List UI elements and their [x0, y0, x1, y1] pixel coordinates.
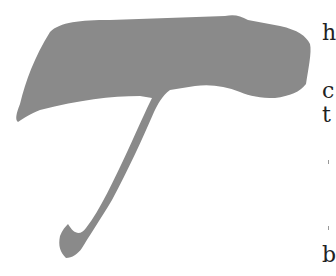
edge-letter-b: b — [322, 244, 336, 266]
dropcap-stroke — [16, 15, 310, 258]
edge-mark — [328, 226, 329, 230]
edge-letter-c: c — [322, 80, 334, 102]
edge-letter-h: h — [322, 22, 336, 44]
edge-mark — [328, 160, 329, 164]
edge-letter-t: t — [322, 104, 331, 126]
